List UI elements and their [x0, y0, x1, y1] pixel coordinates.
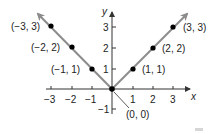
absolute-value-graph: y x −3 −2 −1 1 2 3 3 2 1 −1 (−3, 3) (−2,… [0, 0, 209, 134]
x-tick-label: 2 [150, 94, 156, 105]
x-axis-label: x [190, 91, 197, 102]
point-label: (2, 2) [162, 43, 185, 54]
point-label: (3, 3) [183, 22, 206, 33]
x-tick-label: −2 [65, 94, 77, 105]
point-label: (−3, 3) [11, 21, 40, 32]
x-tick-label: −1 [85, 94, 97, 105]
y-tick-label: −1 [98, 104, 110, 115]
x-tick-label: 3 [170, 94, 176, 105]
y-axis-label: y [101, 6, 108, 17]
x-tick-label: −3 [44, 94, 56, 105]
origin-pointer [114, 92, 129, 108]
point-label: (0, 0) [126, 109, 149, 120]
y-tick-label: 2 [103, 43, 109, 54]
x-tick-label: 1 [130, 94, 136, 105]
point-label: (−2, 2) [31, 42, 60, 53]
y-tick-label: 1 [103, 64, 109, 75]
y-tick-label: 3 [103, 22, 109, 33]
y-ticks [112, 27, 116, 109]
point-label: (−1, 1) [51, 64, 80, 75]
corner-mark [195, 128, 203, 131]
point-label: (1, 1) [142, 64, 165, 75]
